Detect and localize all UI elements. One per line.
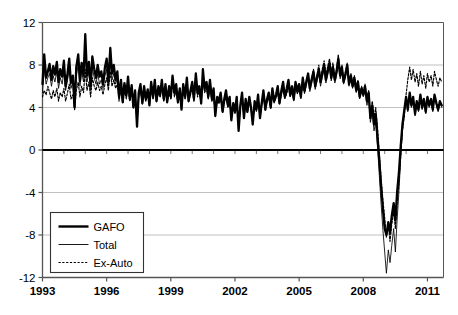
y-axis-tick-labels: 12840-4-8-12 [19,17,36,284]
chart-container: 12840-4-8-12 199319961999200220052008201… [0,0,458,315]
y-tick-label: 0 [29,144,35,156]
x-tick-label: 1999 [158,285,184,297]
y-tick-label: -4 [25,187,36,199]
y-tick-label: -12 [19,272,36,284]
retail-sales-growth-line-chart: 12840-4-8-12 199319961999200220052008201… [0,0,458,315]
x-tick-label: 2011 [415,285,441,297]
x-tick-label: 1996 [94,285,120,297]
y-tick-label: 12 [23,17,36,29]
legend-label-total: Total [94,239,117,251]
legend: GAFOTotalEx-Auto [51,213,144,273]
series-line-gafo [43,34,442,235]
y-tick-label: 4 [29,102,36,114]
x-tick-label: 2008 [351,285,377,297]
x-tick-label: 2005 [286,285,312,297]
legend-label-ex-auto: Ex-Auto [94,257,133,269]
x-axis-tick-labels: 1993199619992002200520082011 [30,285,441,297]
legend-label-gafo: GAFO [94,221,126,233]
y-tick-label: 8 [29,59,35,71]
y-tick-label: -8 [25,229,35,241]
x-tick-label: 2002 [222,285,248,297]
x-tick-label: 1993 [30,285,56,297]
